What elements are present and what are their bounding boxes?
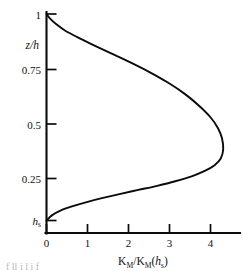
y-tick-label-025: 0.25 — [22, 173, 42, 185]
figure-root: 1 0.75 0.5 0.25 hs 0 1 2 3 4 z/h KM/KM(h… — [0, 0, 243, 271]
y-axis-title: z/h — [25, 39, 40, 51]
x-tick-label-4: 4 — [208, 237, 214, 249]
y-tick-label-05: 0.5 — [27, 119, 41, 131]
y-tick-label-1: 1 — [36, 9, 42, 21]
data-curve-km-profile — [47, 14, 224, 221]
x-tick-label-2: 2 — [126, 237, 132, 249]
caption-text-remnant: f ll i l i f — [6, 262, 238, 271]
x-tick-label-1: 1 — [85, 237, 91, 249]
y-axis-title-h: h — [33, 39, 39, 51]
x-tick-label-0: 0 — [44, 237, 50, 249]
x-tick-label-3: 3 — [167, 237, 173, 249]
y-tick-label-075: 0.75 — [22, 64, 42, 76]
eddy-viscosity-chart: 1 0.75 0.5 0.25 hs 0 1 2 3 4 z/h KM/KM(h… — [0, 0, 243, 271]
y-tick-label-hs-sub: s — [38, 220, 41, 229]
y-tick-label-hs: hs — [33, 215, 42, 229]
